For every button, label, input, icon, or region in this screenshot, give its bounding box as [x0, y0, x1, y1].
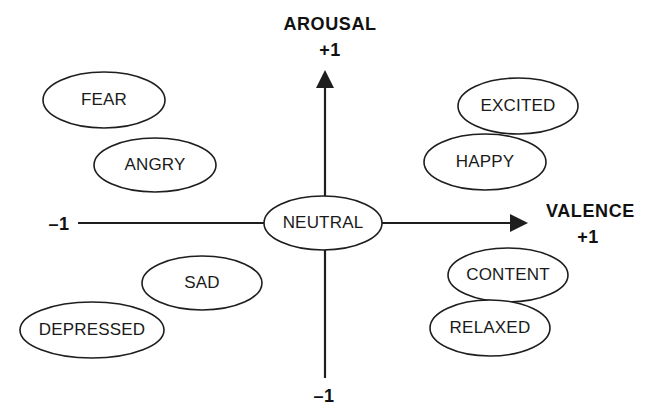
emotion-node-fear[interactable]: FEAR [43, 72, 165, 128]
valence-axis-title: VALENCE [546, 201, 635, 221]
emotion-label-angry: ANGRY [124, 155, 185, 174]
emotion-label-fear: FEAR [81, 90, 127, 109]
arousal-axis-positive-tick: +1 [319, 40, 340, 60]
emotion-label-content: CONTENT [466, 265, 550, 284]
emotion-label-relaxed: RELAXED [450, 318, 531, 337]
emotion-node-angry[interactable]: ANGRY [94, 138, 216, 192]
arousal-axis-negative-tick: –1 [314, 386, 335, 406]
emotion-circumplex-diagram: FEAR ANGRY EXCITED HAPPY NEUTRAL CONTENT [0, 0, 658, 420]
emotion-node-depressed[interactable]: DEPRESSED [20, 302, 164, 358]
diagram-canvas: FEAR ANGRY EXCITED HAPPY NEUTRAL CONTENT [0, 0, 658, 420]
emotion-node-sad[interactable]: SAD [142, 256, 262, 310]
emotion-nodes-group: FEAR ANGRY EXCITED HAPPY NEUTRAL CONTENT [20, 72, 578, 358]
arousal-axis-title: AROUSAL [283, 14, 376, 34]
emotion-label-sad: SAD [184, 273, 220, 292]
emotion-label-excited: EXCITED [480, 96, 555, 115]
valence-axis-negative-tick: –1 [49, 214, 70, 234]
emotion-label-depressed: DEPRESSED [39, 320, 146, 339]
emotion-label-happy: HAPPY [456, 152, 515, 171]
emotion-label-neutral: NEUTRAL [283, 213, 364, 232]
valence-axis-arrowhead-icon [510, 214, 528, 232]
emotion-node-content[interactable]: CONTENT [448, 248, 568, 302]
emotion-node-neutral[interactable]: NEUTRAL [264, 196, 382, 250]
emotion-node-excited[interactable]: EXCITED [458, 78, 578, 134]
arousal-axis-arrowhead-icon [316, 70, 334, 88]
emotion-node-happy[interactable]: HAPPY [424, 134, 546, 190]
emotion-node-relaxed[interactable]: RELAXED [430, 300, 550, 356]
valence-axis-positive-tick: +1 [577, 227, 598, 247]
